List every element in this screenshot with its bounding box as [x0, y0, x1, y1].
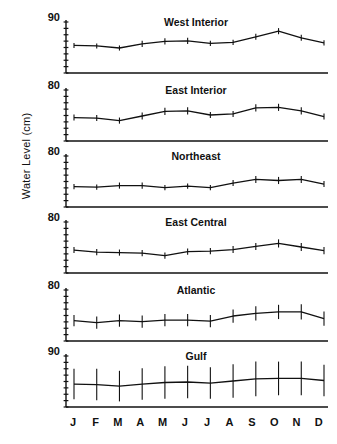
x-axis-tick-label: F [88, 416, 104, 428]
panel-plot-gulf [62, 352, 330, 414]
panel-plot-atlantic [62, 286, 330, 348]
panel-plot-west-interior [62, 18, 330, 80]
panel-ytop-label: 80 [36, 211, 60, 223]
panel-ytop-label: 80 [36, 79, 60, 91]
data-line [74, 378, 324, 386]
x-axis-tick-label: J [65, 416, 81, 428]
water-level-figure: Water Level (cm) 90 West Interior 80 Eas… [0, 0, 337, 444]
x-axis-tick-label: J [177, 416, 193, 428]
x-axis-tick-label: A [222, 416, 238, 428]
x-axis-month-labels: JFMAMJJASOND [62, 416, 330, 434]
x-axis-tick-label: A [132, 416, 148, 428]
x-axis-tick-label: J [199, 416, 215, 428]
panel-plot-east-central [62, 218, 330, 280]
panel-ytop-label: 90 [36, 11, 60, 23]
data-line [74, 243, 324, 255]
x-axis-tick-label: M [155, 416, 171, 428]
panel-plot-northeast [62, 152, 330, 214]
x-axis-tick-label: O [266, 416, 282, 428]
panel-stack: 90 West Interior 80 East Interior 80 Nor… [0, 0, 337, 444]
panel-ytop-label: 80 [36, 145, 60, 157]
data-line [74, 179, 324, 187]
panel-plot-east-interior [62, 86, 330, 148]
x-axis-tick-label: M [110, 416, 126, 428]
data-line [74, 107, 324, 120]
panel-ytop-label: 90 [36, 345, 60, 357]
data-line [74, 31, 324, 48]
x-axis-tick-label: D [311, 416, 327, 428]
panel-ytop-label: 80 [36, 279, 60, 291]
data-line [74, 312, 324, 323]
x-axis-tick-label: N [289, 416, 305, 428]
x-axis-tick-label: S [244, 416, 260, 428]
